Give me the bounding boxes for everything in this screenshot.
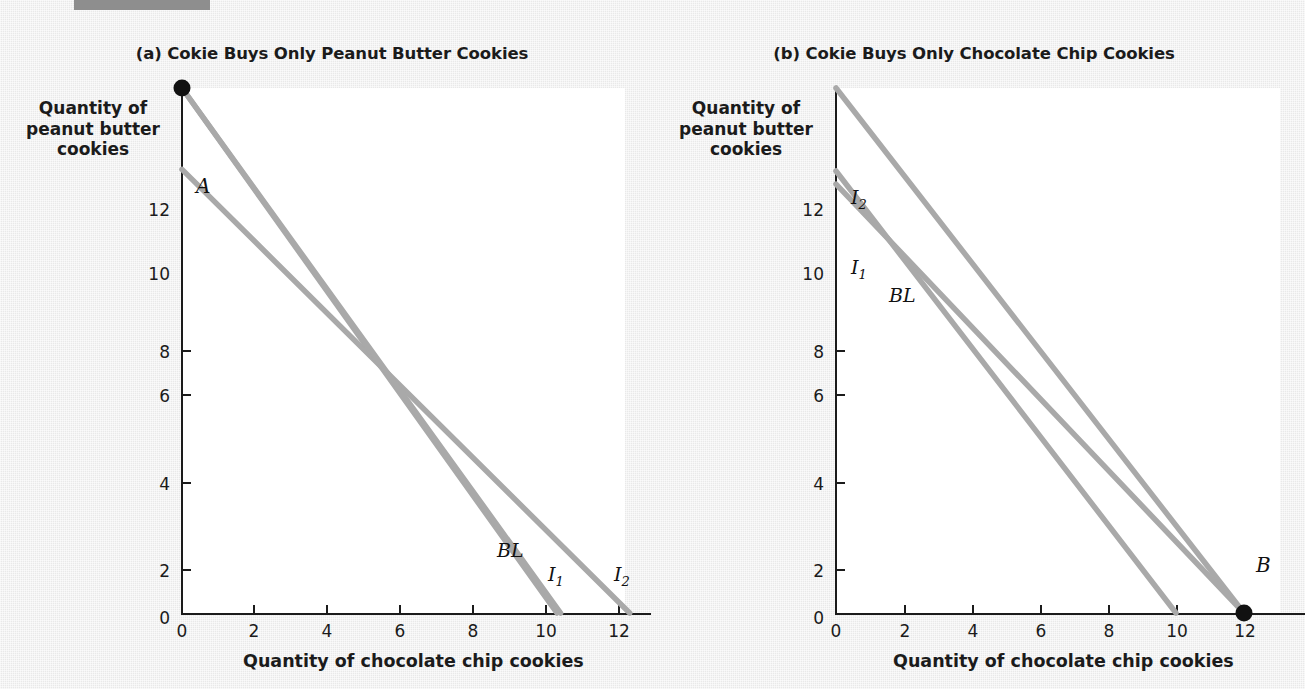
curve-label-I2-panel-a-base: I	[614, 563, 622, 585]
panel-a-x-axis-caption: Quantity of chocolate chip cookies	[243, 651, 584, 671]
panel-a-y-label-8: 8	[136, 342, 170, 362]
curve-label-BL-panel-a: BL	[497, 539, 524, 561]
panel-a: (a) Cokie Buys Only Peanut Butter Cookie…	[0, 0, 660, 689]
panel-a-y-axis-caption: Quantity of peanut butter cookies	[8, 98, 178, 160]
panel-a-curves	[182, 88, 632, 623]
panel-b-x-axis-caption: Quantity of chocolate chip cookies	[893, 651, 1234, 671]
curve-label-I2-panel-a-sub: 2	[622, 574, 630, 589]
curve-label-I1-panel-a-base: I	[548, 563, 556, 585]
panel-a-y-label-2: 2	[136, 561, 170, 581]
panel-b-x-label-4: 4	[960, 621, 986, 641]
curve-I2-panel-b	[836, 88, 1244, 613]
panel-b-y-label-2: 2	[790, 561, 824, 581]
panel-a-title: (a) Cokie Buys Only Peanut Butter Cookie…	[2, 44, 662, 63]
panel-a-y-axis-caption-line-3: cookies	[8, 139, 178, 160]
curve-I1-panel-b	[836, 171, 1176, 613]
panel-b-y-label-4: 4	[790, 474, 824, 494]
panel-b-x-label-10: 10	[1164, 621, 1190, 641]
point-B-label: B	[1256, 553, 1271, 577]
point-A-marker	[174, 80, 191, 97]
panel-a-y-axis-caption-line-2: peanut butter	[8, 119, 178, 140]
panel-a-y-label-10: 10	[136, 264, 170, 284]
curve-label-I1-panel-b-sub: 1	[859, 267, 867, 282]
curve-label-I1-panel-b: I1	[851, 256, 867, 282]
panel-a-y-label-0: 0	[136, 608, 170, 628]
panel-b-x-label-0: 0	[823, 621, 849, 641]
panel-a-x-label-8: 8	[460, 621, 486, 641]
panel-b-y-axis-caption-line-3: cookies	[661, 139, 831, 160]
panel-b-y-label-12: 12	[790, 200, 824, 220]
panel-a-x-label-2: 2	[241, 621, 267, 641]
curve-label-I1-panel-a: I1	[548, 563, 564, 589]
panel-a-x-label-4: 4	[314, 621, 340, 641]
panel-b-y-axis-caption-line-1: Quantity of	[661, 98, 831, 119]
panel-b-y-axis-caption: Quantity of peanut butter cookies	[661, 98, 831, 160]
panel-a-x-label-12: 12	[606, 621, 632, 641]
curve-label-BL-panel-b: BL	[889, 284, 916, 306]
panel-b-x-label-6: 6	[1028, 621, 1054, 641]
panel-a-x-label-0: 0	[169, 621, 195, 641]
figure-canvas: (a) Cokie Buys Only Peanut Butter Cookie…	[0, 0, 1305, 689]
panel-a-y-label-4: 4	[136, 474, 170, 494]
panel-b-y-label-10: 10	[790, 264, 824, 284]
panel-b-y-label-6: 6	[790, 386, 824, 406]
curve-I2-panel-a	[182, 169, 630, 613]
curve-label-I1-panel-a-sub: 1	[556, 574, 564, 589]
panel-b-y-label-0: 0	[790, 608, 824, 628]
panel-b: (b) Cokie Buys Only Chocolate Chip Cooki…	[655, 0, 1305, 689]
panel-b-x-label-8: 8	[1096, 621, 1122, 641]
panel-b-x-label-12: 12	[1232, 621, 1258, 641]
curve-label-I2-panel-a: I2	[614, 563, 630, 589]
panel-a-x-label-10: 10	[533, 621, 559, 641]
panel-b-y-label-8: 8	[790, 342, 824, 362]
curve-label-I1-panel-b-base: I	[851, 256, 859, 278]
panel-b-y-axis-caption-line-2: peanut butter	[661, 119, 831, 140]
curve-label-BL-panel-b-base: BL	[889, 284, 916, 306]
panel-a-y-label-6: 6	[136, 386, 170, 406]
point-A-label: A	[196, 174, 210, 198]
panel-a-y-axis-caption-line-1: Quantity of	[8, 98, 178, 119]
panel-b-curves	[836, 88, 1286, 623]
curve-label-BL-panel-a-base: BL	[497, 539, 524, 561]
panel-b-title: (b) Cokie Buys Only Chocolate Chip Cooki…	[649, 44, 1299, 63]
curve-label-I2-panel-b-sub: 2	[859, 197, 867, 212]
panel-a-x-label-6: 6	[387, 621, 413, 641]
panel-a-y-label-12: 12	[136, 200, 170, 220]
curve-label-I2-panel-b: I2	[851, 186, 867, 212]
point-B-marker	[1236, 605, 1253, 622]
panel-b-x-label-2: 2	[892, 621, 918, 641]
curve-I1-panel-a	[182, 88, 561, 613]
curve-label-I2-panel-b-base: I	[851, 186, 859, 208]
